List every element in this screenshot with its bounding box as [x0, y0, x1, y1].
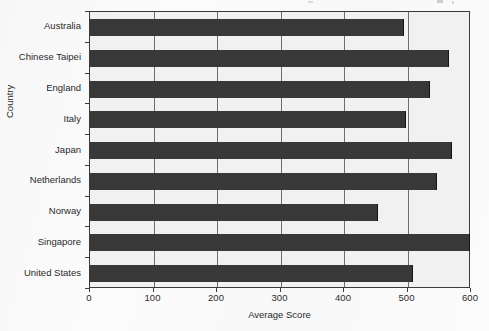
bar: [90, 142, 452, 159]
y-axis-label-italy: Italy: [64, 113, 81, 124]
x-axis-tick-labels: 0100200300400500600: [89, 292, 470, 306]
bar-slot: [90, 258, 469, 289]
bar-slot: [90, 104, 469, 135]
bar: [90, 19, 404, 36]
x-axis-title: Average Score: [89, 309, 470, 320]
y-axis-label-norway: Norway: [49, 205, 81, 216]
y-axis-tick: [85, 73, 89, 74]
x-axis-label-200: 200: [208, 292, 224, 304]
x-axis-label-500: 500: [399, 292, 415, 304]
y-axis-label-chinese-taipei: Chinese Taipei: [19, 51, 81, 62]
scan-speck-icon: [452, 1, 454, 4]
scan-speck-icon: [437, 0, 443, 3]
bar: [90, 173, 437, 190]
bar: [90, 234, 470, 251]
y-axis-label-singapore: Singapore: [38, 236, 81, 247]
scan-speck-icon: [308, 1, 313, 3]
y-axis-label-united-states: United States: [24, 267, 81, 278]
x-axis-label-400: 400: [335, 292, 351, 304]
y-axis-tick: [85, 42, 89, 43]
bar-series: [90, 12, 469, 287]
x-axis-label-0: 0: [86, 292, 91, 304]
y-axis-label-japan: Japan: [55, 144, 81, 155]
x-axis-label-300: 300: [272, 292, 288, 304]
y-axis-label-england: England: [46, 82, 81, 93]
y-axis-tick: [85, 11, 89, 12]
y-axis-label-netherlands: Netherlands: [30, 174, 81, 185]
y-axis-tick: [85, 196, 89, 197]
bar: [90, 265, 413, 282]
bar-slot: [90, 74, 469, 105]
y-axis-tick: [85, 226, 89, 227]
y-axis-tick-labels: AustraliaChinese TaipeiEnglandItalyJapan…: [0, 11, 85, 288]
y-axis-tick: [85, 134, 89, 135]
bar: [90, 111, 406, 128]
x-axis-label-100: 100: [145, 292, 161, 304]
bar-slot: [90, 197, 469, 228]
y-axis-label-australia: Australia: [44, 20, 81, 31]
bar-slot: [90, 135, 469, 166]
plot-area: [89, 11, 470, 288]
bar-slot: [90, 43, 469, 74]
y-axis-tick: [85, 103, 89, 104]
y-axis-tick: [85, 257, 89, 258]
bar-slot: [90, 12, 469, 43]
bar-slot: [90, 166, 469, 197]
bar: [90, 50, 449, 67]
x-axis-label-600: 600: [462, 292, 478, 304]
y-axis-tick: [85, 165, 89, 166]
bar: [90, 204, 378, 221]
bar-chart-figure: Country AustraliaChinese TaipeiEnglandIt…: [0, 0, 489, 331]
bar-slot: [90, 227, 469, 258]
bar: [90, 81, 430, 98]
